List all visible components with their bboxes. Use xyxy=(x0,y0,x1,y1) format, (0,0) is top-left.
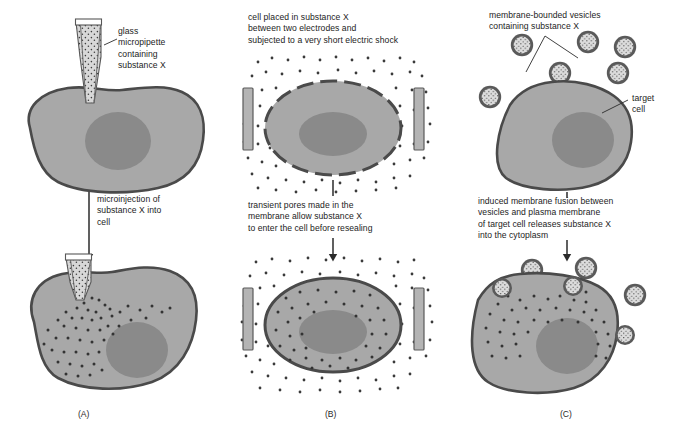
nucleus xyxy=(85,112,151,170)
nucleus xyxy=(299,112,367,156)
panel-c-target-cell-label: target cell xyxy=(632,93,684,116)
electrode-right xyxy=(414,88,424,150)
panel-a-step-caption: microinjection of substance X into cell xyxy=(97,194,217,228)
vesicle xyxy=(479,86,501,108)
vesicle-leader-line-2 xyxy=(545,36,578,58)
panel-b-top-caption: cell placed in substance X between two e… xyxy=(248,12,443,46)
vesicle-fusing xyxy=(492,278,512,298)
panel-a-top-cell xyxy=(29,87,204,192)
vesicle xyxy=(575,257,597,279)
vesicle xyxy=(607,62,629,84)
panel-a-pipette-label: glass micropipette containing substance … xyxy=(118,26,208,72)
panel-b-letter: (B) xyxy=(325,409,336,419)
pipette-leader-line xyxy=(104,39,117,45)
vesicle-fusing xyxy=(563,276,583,296)
electrode-right xyxy=(414,288,424,350)
vesicle xyxy=(511,34,533,56)
nucleus xyxy=(106,322,168,378)
vesicle xyxy=(624,284,646,306)
nucleus xyxy=(536,318,598,374)
nucleus xyxy=(552,112,614,168)
cell-membrane xyxy=(31,267,196,388)
panel-a-bottom-cell xyxy=(31,267,196,388)
panel-c-step-caption: induced membrane fusion between vesicles… xyxy=(478,196,683,242)
panel-a-letter: (A) xyxy=(78,409,89,419)
electrode-left xyxy=(243,88,253,150)
panel-c-top-cell xyxy=(497,81,632,189)
panel-b-step-caption: transient pores made in the membrane all… xyxy=(248,200,438,234)
figure-canvas: glass micropipette containing substance … xyxy=(0,0,692,437)
panel-b-top-cell xyxy=(265,81,401,175)
vesicle xyxy=(614,36,636,58)
vesicle-fusing xyxy=(615,325,635,345)
panel-c-letter: (C) xyxy=(560,409,572,419)
electrode-left xyxy=(243,288,253,350)
panel-c-top-caption: membrane-bounded vesicles containing sub… xyxy=(489,10,679,33)
vesicle xyxy=(577,31,599,53)
panel-b-bottom-cell xyxy=(265,278,401,372)
